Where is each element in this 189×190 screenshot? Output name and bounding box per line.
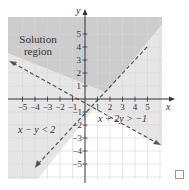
- svg-text:−4: −4: [30, 102, 40, 112]
- svg-text:1: 1: [77, 81, 82, 91]
- svg-text:2: 2: [77, 68, 82, 78]
- svg-text:−2: −2: [72, 120, 82, 130]
- svg-text:−3: −3: [72, 133, 82, 143]
- svg-text:−2: −2: [55, 102, 65, 112]
- svg-text:−4: −4: [72, 146, 82, 156]
- svg-text:−5: −5: [72, 159, 82, 169]
- inequality-label-x-plus-2y: x + 2y > −1: [97, 113, 147, 124]
- inequality-label-x-minus-y: x − y < 2: [17, 124, 55, 135]
- svg-text:1: 1: [95, 102, 100, 112]
- svg-text:5: 5: [145, 102, 150, 112]
- svg-text:3: 3: [77, 55, 82, 65]
- svg-text:4: 4: [133, 102, 138, 112]
- svg-text:−3: −3: [43, 102, 53, 112]
- solution-region-label-line2: region: [24, 45, 53, 57]
- x-axis-label: x: [165, 101, 171, 112]
- svg-text:3: 3: [120, 102, 125, 112]
- svg-text:4: 4: [77, 42, 82, 52]
- inequality-graph: −5 −4 −3 −2 −1 1 2 3 4 5 5 4 3 2 1 −1 −2…: [0, 0, 189, 190]
- checkbox[interactable]: [175, 170, 184, 179]
- y-axis-label: y: [75, 5, 81, 16]
- svg-text:2: 2: [108, 102, 113, 112]
- svg-text:−1: −1: [72, 107, 82, 117]
- svg-text:5: 5: [77, 29, 82, 39]
- svg-text:−5: −5: [18, 102, 28, 112]
- solution-region-label-line1: Solution: [19, 33, 57, 45]
